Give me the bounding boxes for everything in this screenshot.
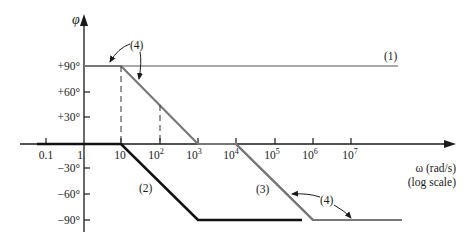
y-tick-label: +60° [57, 86, 80, 98]
y-tick-label: −90° [57, 214, 80, 226]
annotation-arrow-icon [110, 44, 130, 62]
x-tick-label: 104 [223, 147, 239, 161]
x-tick-label: 1 [77, 149, 83, 161]
series-4-label-upper: (4) [130, 39, 144, 52]
annotation-arrow-icon [334, 205, 351, 218]
y-tick-label: −30° [57, 162, 80, 174]
x-axis-arrow-icon [444, 140, 456, 148]
series-2-label: (2) [139, 182, 153, 195]
series-4-line [84, 66, 402, 220]
x-tick-label: 102 [148, 147, 164, 161]
y-axis-arrow-icon [80, 14, 88, 26]
y-axis: φ +90° +60° +30° −30° −60° −90° [57, 12, 90, 232]
x-tick-label: 10 [114, 149, 126, 161]
series-1-label: (1) [384, 50, 398, 63]
y-tick-label: +90° [57, 60, 80, 72]
x-axis-label: ω (rad/s) [416, 162, 457, 175]
x-tick-label: 107 [342, 147, 358, 161]
series-3-label: (3) [256, 183, 270, 196]
x-tick-label: 0.1 [39, 149, 54, 161]
bode-phase-chart: φ +90° +60° +30° −30° −60° −90° 0.1 1 10… [0, 0, 469, 247]
x-tick-label: 103 [186, 147, 202, 161]
x-tick-label: 106 [302, 147, 318, 161]
x-axis-scale-note: (log scale) [408, 176, 456, 189]
y-tick-label: +30° [57, 111, 80, 123]
annotation-arrow-icon [292, 194, 320, 197]
y-axis-label: φ [72, 12, 80, 27]
series-4-label-lower: (4) [320, 194, 334, 207]
y-tick-label: −60° [57, 188, 80, 200]
x-tick-label: 105 [264, 147, 280, 161]
